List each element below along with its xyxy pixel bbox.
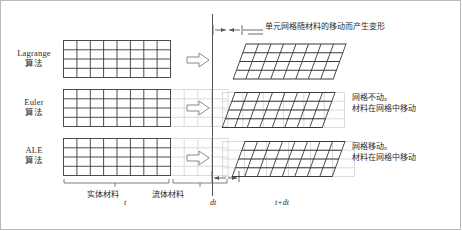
annotation-lagrange: 单元网格随材料的移动而产生变形 (265, 20, 385, 31)
grid-euler-final (222, 90, 352, 130)
time-label-initial: t (110, 198, 140, 207)
annotation-euler-line1: 网格不动。 (352, 92, 416, 103)
method-label-ale-line2: 算法 (8, 155, 60, 165)
time-label-delta: dt (200, 198, 226, 207)
method-label-ale-line1: ALE (8, 145, 60, 155)
time-divider-line (212, 14, 213, 196)
method-label-euler-line1: Euler (8, 97, 60, 107)
transition-arrow-ale (186, 150, 210, 170)
grid-euler-final-material (222, 93, 335, 128)
method-label-ale: ALE 算法 (8, 145, 60, 165)
method-label-lagrange-line1: Lagrange (8, 48, 60, 58)
method-label-euler: Euler 算法 (8, 97, 60, 117)
method-label-lagrange: Lagrange 算法 (8, 48, 60, 68)
annotation-ale-line1: 网格移动。 (352, 141, 416, 152)
time-label-final: t+dt (262, 198, 302, 207)
grid-ale-initial-solid (64, 139, 171, 176)
method-label-euler-line2: 算法 (8, 107, 60, 117)
annotation-ale: 网格移动。 材料在网格中移动 (352, 141, 416, 163)
annotation-ale-line2: 材料在网格中移动 (352, 152, 416, 163)
grid-lagrange-final (231, 42, 351, 82)
method-label-lagrange-line2: 算法 (8, 58, 60, 68)
grid-euler-initial-solid (64, 90, 171, 127)
grid-lagrange-initial (63, 40, 171, 78)
figure-canvas: Lagrange 算法 Euler 算法 ALE 算法 (0, 0, 462, 231)
grid-ale-final (222, 139, 362, 181)
top-annotation-leader (248, 24, 264, 42)
transition-arrow-euler (186, 100, 210, 120)
annotation-euler-line2: 材料在网格中移动 (352, 103, 416, 114)
annotation-euler: 网格不动。 材料在网格中移动 (352, 92, 416, 114)
transition-arrow-lagrange (186, 52, 210, 72)
